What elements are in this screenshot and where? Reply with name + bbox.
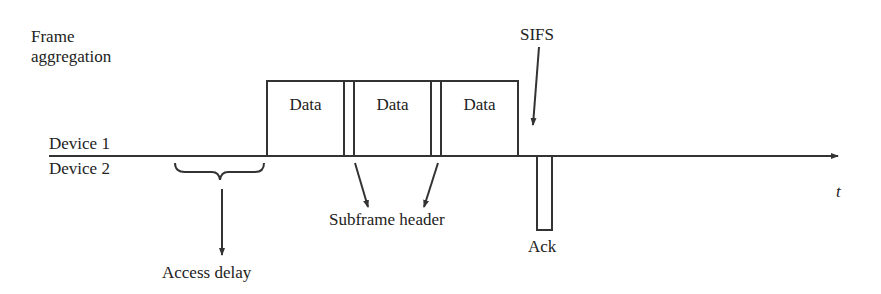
subframe-header-1 xyxy=(344,81,354,156)
data-frame-2 xyxy=(354,81,431,156)
data-frame-1 xyxy=(267,81,344,156)
title-line-2: aggregation xyxy=(31,47,111,67)
data-frame-3-label: Data xyxy=(441,95,518,115)
data-frame-3 xyxy=(441,81,518,156)
diagram-title: Frame aggregation xyxy=(31,27,111,67)
data-frame-1-label: Data xyxy=(267,95,344,115)
ack-frame xyxy=(537,156,552,230)
subframe-header-2 xyxy=(431,81,441,156)
subframe-header-arrow-1 xyxy=(355,163,368,207)
device-2-label: Device 2 xyxy=(49,159,110,179)
access-delay-brace xyxy=(175,163,264,180)
data-frame-2-label: Data xyxy=(354,95,431,115)
device-1-label: Device 1 xyxy=(49,134,110,154)
sifs-arrow xyxy=(533,47,539,125)
access-delay-label: Access delay xyxy=(162,263,251,283)
sifs-label: SIFS xyxy=(520,25,554,45)
subframe-header-label: Subframe header xyxy=(329,210,445,230)
title-line-1: Frame xyxy=(31,27,111,47)
ack-label: Ack xyxy=(528,237,556,257)
time-axis-label: t xyxy=(836,182,841,202)
subframe-header-arrow-2 xyxy=(424,163,438,207)
frame-aggregation-diagram xyxy=(0,0,881,294)
